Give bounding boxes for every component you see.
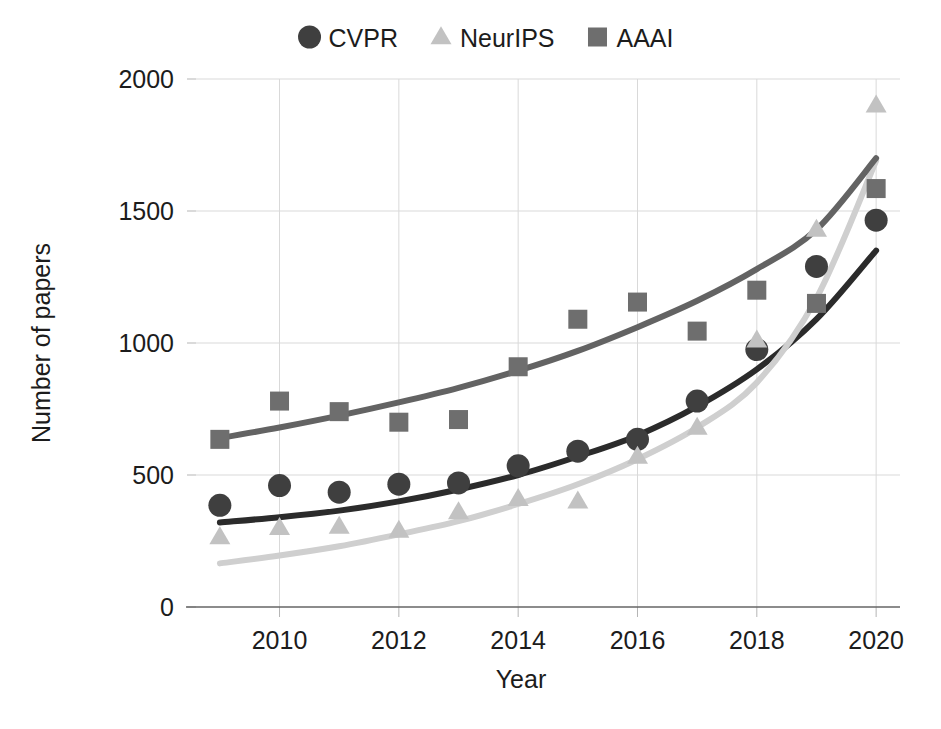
x-tick-label: 2020	[848, 626, 904, 654]
legend-marker-cvpr	[298, 26, 321, 49]
data-point-cvpr-2015	[566, 440, 589, 463]
x-tick-label: 2018	[729, 626, 785, 654]
chart-background	[0, 0, 941, 729]
data-point-aaai-2013	[449, 410, 468, 429]
legend-label: NeurIPS	[460, 24, 554, 52]
data-point-aaai-2017	[688, 322, 707, 341]
legend-item-cvpr[interactable]: CVPR	[298, 24, 398, 52]
data-point-aaai-2019	[807, 294, 826, 313]
data-point-cvpr-2011	[328, 481, 351, 504]
data-point-aaai-2015	[568, 310, 587, 329]
data-point-aaai-2010	[270, 392, 289, 411]
data-point-cvpr-2009	[208, 494, 231, 517]
legend-marker-aaai	[588, 28, 607, 47]
data-point-aaai-2018	[747, 281, 766, 300]
x-tick-label: 2012	[371, 626, 427, 654]
scatter-chart: 0500100015002000 20102012201420162018202…	[0, 0, 941, 729]
legend-label: CVPR	[329, 24, 398, 52]
data-point-cvpr-2013	[447, 471, 470, 494]
y-tick-label: 2000	[118, 65, 174, 93]
y-axis-title: Number of papers	[27, 243, 55, 443]
data-point-cvpr-2017	[686, 390, 709, 413]
y-tick-label: 1500	[118, 197, 174, 225]
data-point-cvpr-2019	[805, 255, 828, 278]
y-tick-label: 500	[132, 461, 174, 489]
chart-container: 0500100015002000 20102012201420162018202…	[0, 0, 941, 729]
x-tick-label: 2014	[490, 626, 546, 654]
data-point-cvpr-2014	[507, 454, 530, 477]
data-point-aaai-2014	[509, 357, 528, 376]
data-point-aaai-2009	[210, 430, 229, 449]
data-point-aaai-2012	[389, 413, 408, 432]
x-tick-label: 2016	[610, 626, 666, 654]
data-point-aaai-2016	[628, 293, 647, 312]
data-point-aaai-2020	[867, 179, 886, 198]
legend-label: AAAI	[616, 24, 673, 52]
data-point-cvpr-2012	[387, 473, 410, 496]
x-axis-title: Year	[496, 665, 547, 693]
data-point-aaai-2011	[330, 402, 349, 421]
x-tick-label: 2010	[252, 626, 308, 654]
y-tick-label: 1000	[118, 329, 174, 357]
data-point-cvpr-2020	[865, 209, 888, 232]
data-point-cvpr-2010	[268, 474, 291, 497]
chart-legend: CVPRNeurIPSAAAI	[298, 24, 673, 52]
y-tick-label: 0	[160, 593, 174, 621]
